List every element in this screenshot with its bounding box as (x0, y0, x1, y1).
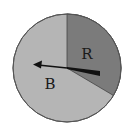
section-label-b: B (44, 75, 55, 93)
spinner-diagram: R B (0, 0, 132, 131)
section-label-r: R (81, 45, 93, 63)
